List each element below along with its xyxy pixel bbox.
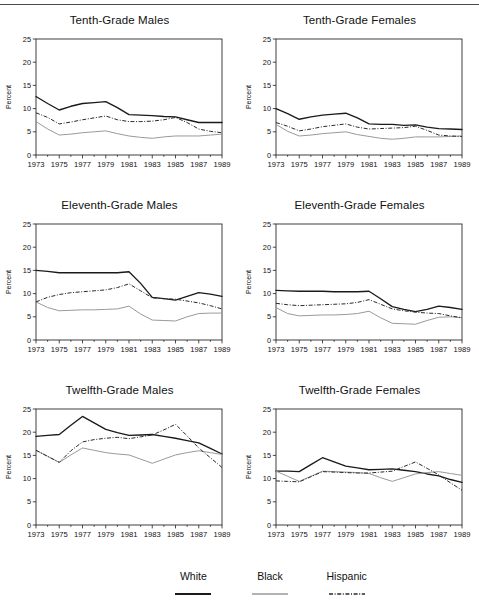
x-tick-label: 1987: [190, 530, 207, 539]
figure-panel-grid: Tenth-Grade Males05101520251973197519771…: [0, 8, 479, 558]
legend-label: Hispanic: [308, 570, 385, 582]
x-tick-label: 1985: [167, 345, 184, 354]
line-chart: 0510152025197319751977197919811983198519…: [240, 28, 479, 178]
x-tick-label: 1987: [430, 345, 447, 354]
x-tick-label: 1977: [74, 530, 91, 539]
line-chart: 0510152025197319751977197919811983198519…: [240, 213, 479, 363]
x-tick-label: 1983: [144, 530, 161, 539]
y-tick-label: 20: [23, 58, 31, 67]
y-tick-label: 0: [27, 521, 31, 530]
legend-label: Black: [232, 570, 309, 582]
panel-title: Eleventh-Grade Females: [240, 199, 479, 211]
chart-panel: Eleventh-Grade Males05101520251973197519…: [0, 193, 239, 378]
y-tick-label: 10: [263, 104, 271, 113]
series-line-white: [276, 109, 462, 130]
series-line-black: [276, 124, 462, 139]
x-tick-label: 1987: [190, 160, 207, 169]
x-tick-label: 1975: [291, 160, 308, 169]
x-tick-label: 1987: [190, 345, 207, 354]
series-line-black: [36, 122, 222, 139]
x-tick-label: 1981: [121, 345, 138, 354]
x-tick-label: 1989: [214, 160, 231, 169]
y-tick-label: 0: [267, 336, 271, 345]
y-tick-label: 10: [263, 289, 271, 298]
chart-panel: Twelfth-Grade Females0510152025197319751…: [240, 378, 479, 563]
y-tick-label: 5: [27, 497, 31, 506]
x-tick-label: 1979: [337, 345, 354, 354]
y-tick-label: 10: [23, 289, 31, 298]
x-tick-label: 1981: [361, 160, 378, 169]
chart-panel: Tenth-Grade Females051015202519731975197…: [240, 8, 479, 193]
x-tick-label: 1979: [97, 160, 114, 169]
y-tick-label: 15: [23, 451, 31, 460]
header-rule: [0, 4, 479, 5]
series-line-hispanic: [276, 462, 462, 490]
y-tick-label: 15: [23, 81, 31, 90]
y-tick-label: 10: [23, 474, 31, 483]
y-tick-label: 5: [27, 127, 31, 136]
x-tick-label: 1983: [384, 530, 401, 539]
x-tick-label: 1981: [121, 530, 138, 539]
y-axis-label: Percent: [245, 455, 252, 479]
series-line-white: [276, 290, 462, 311]
x-tick-label: 1973: [28, 160, 45, 169]
y-tick-label: 10: [263, 474, 271, 483]
y-tick-label: 5: [267, 127, 271, 136]
series-line-black: [276, 308, 462, 325]
x-tick-label: 1983: [144, 160, 161, 169]
chart-panel: Tenth-Grade Males05101520251973197519771…: [0, 8, 239, 193]
legend-item: Hispanic: [308, 570, 385, 597]
y-tick-label: 25: [263, 35, 271, 44]
y-tick-label: 25: [23, 35, 31, 44]
panel-title: Tenth-Grade Males: [0, 14, 239, 26]
legend-swatch-white: [155, 591, 232, 597]
x-tick-label: 1979: [97, 530, 114, 539]
x-tick-label: 1973: [28, 345, 45, 354]
plot-frame: [36, 224, 222, 340]
x-tick-label: 1975: [51, 345, 68, 354]
x-tick-label: 1981: [361, 345, 378, 354]
x-tick-label: 1977: [314, 160, 331, 169]
y-axis-label: Percent: [245, 85, 252, 109]
series-line-hispanic: [276, 123, 462, 137]
line-chart: 0510152025197319751977197919811983198519…: [240, 398, 479, 548]
x-tick-label: 1985: [407, 530, 424, 539]
y-axis-label: Percent: [5, 85, 12, 109]
legend-label: White: [155, 570, 232, 582]
y-tick-label: 20: [263, 58, 271, 67]
x-tick-label: 1973: [268, 345, 285, 354]
y-tick-label: 5: [27, 312, 31, 321]
y-tick-label: 25: [23, 405, 31, 414]
plot-frame: [36, 409, 222, 525]
legend-swatch-hispanic: [308, 591, 385, 597]
x-tick-label: 1973: [28, 530, 45, 539]
series-line-white: [36, 97, 222, 123]
x-tick-label: 1985: [407, 345, 424, 354]
x-tick-label: 1977: [74, 345, 91, 354]
y-tick-label: 20: [23, 243, 31, 252]
series-line-hispanic: [276, 300, 462, 318]
legend-item: White: [155, 570, 232, 597]
x-tick-label: 1975: [291, 345, 308, 354]
panel-title: Eleventh-Grade Males: [0, 199, 239, 211]
y-tick-label: 25: [263, 405, 271, 414]
x-tick-label: 1975: [51, 160, 68, 169]
y-tick-label: 5: [267, 497, 271, 506]
x-tick-label: 1981: [361, 530, 378, 539]
x-tick-label: 1979: [97, 345, 114, 354]
chart-panel: Eleventh-Grade Females051015202519731975…: [240, 193, 479, 378]
legend-swatch-black: [232, 591, 309, 597]
y-tick-label: 0: [267, 151, 271, 160]
plot-frame: [276, 39, 462, 155]
x-tick-label: 1987: [430, 160, 447, 169]
y-tick-label: 25: [23, 220, 31, 229]
series-line-white: [36, 270, 222, 300]
y-tick-label: 15: [263, 266, 271, 275]
x-tick-label: 1979: [337, 160, 354, 169]
chart-panel: Twelfth-Grade Males051015202519731975197…: [0, 378, 239, 563]
panel-title: Tenth-Grade Females: [240, 14, 479, 26]
line-chart: 0510152025197319751977197919811983198519…: [0, 28, 239, 178]
y-tick-label: 0: [267, 521, 271, 530]
x-tick-label: 1979: [337, 530, 354, 539]
series-line-white: [276, 458, 462, 483]
